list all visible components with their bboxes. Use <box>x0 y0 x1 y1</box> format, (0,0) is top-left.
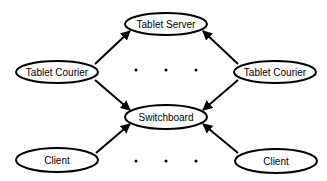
node-label: Client <box>263 156 289 167</box>
node-tablet-courier-left: Tablet Courier <box>16 61 98 83</box>
node-tablet-server: Tablet Server <box>125 13 207 35</box>
edge-left-courier-to-switchboard <box>95 80 130 110</box>
ellipsis-dots-couriers <box>135 69 198 72</box>
ellipsis-dots-clients <box>135 160 198 163</box>
edge-right-courier-to-switchboard <box>203 80 238 110</box>
node-label: Switchboard <box>138 112 193 123</box>
node-label: Client <box>44 155 70 166</box>
edge-right-courier-to-server <box>203 31 238 64</box>
edges <box>95 31 238 153</box>
node-label: Tablet Courier <box>26 67 89 78</box>
node-tablet-courier-right: Tablet Courier <box>234 61 316 83</box>
edge-left-client-to-switchboard <box>96 124 130 153</box>
node-label: Tablet Server <box>137 19 197 30</box>
node-label: Tablet Courier <box>244 67 307 78</box>
node-switchboard: Switchboard <box>125 105 207 129</box>
edge-right-client-to-switchboard <box>203 124 238 153</box>
node-client-right: Client <box>235 149 317 173</box>
edge-left-courier-to-server <box>95 31 130 64</box>
architecture-diagram: Tablet Server Tablet Courier Tablet Cour… <box>0 0 327 181</box>
node-client-left: Client <box>16 148 98 172</box>
